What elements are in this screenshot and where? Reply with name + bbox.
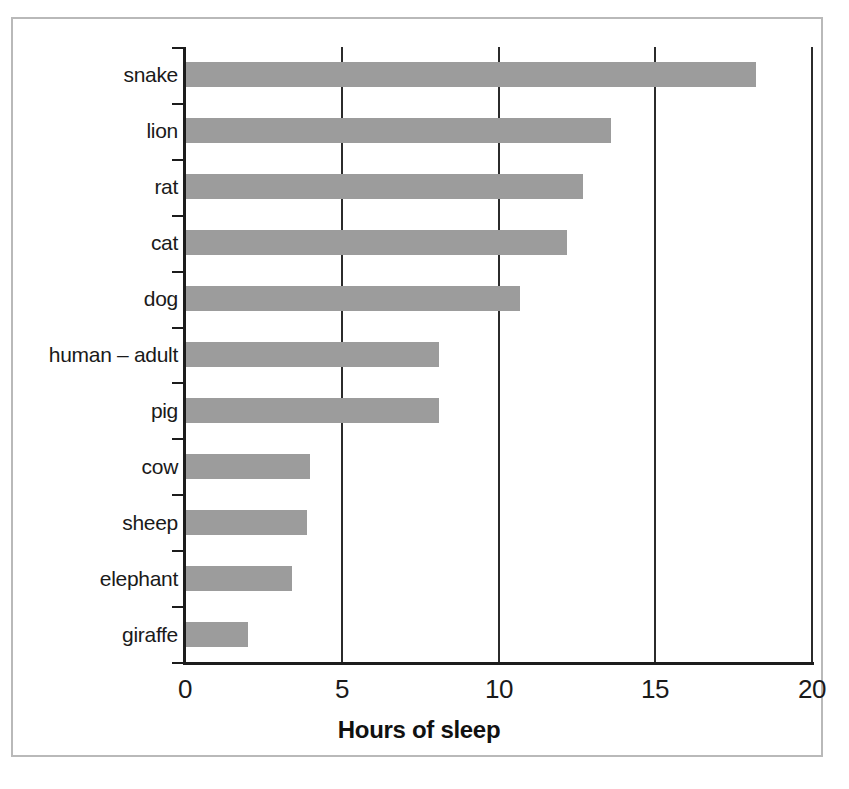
bar [185, 230, 567, 255]
bar [185, 174, 583, 199]
y-axis-tick [172, 159, 185, 161]
y-axis-tick [172, 271, 185, 273]
y-axis-tick [172, 327, 185, 329]
bar [185, 566, 292, 591]
category-axis-labels: snakelionratcatdoghuman – adultpigcowshe… [13, 47, 178, 662]
y-axis-line [183, 47, 186, 664]
category-label: human – adult [18, 342, 178, 367]
gridline-15 [654, 47, 656, 662]
bar [185, 622, 248, 647]
category-label: dog [18, 286, 178, 311]
bar [185, 62, 756, 87]
x-tick-label: 20 [782, 674, 842, 704]
category-label: elephant [18, 566, 178, 591]
bar [185, 342, 439, 367]
category-label: pig [18, 398, 178, 423]
y-axis-tick [172, 103, 185, 105]
y-axis-tick [172, 606, 185, 608]
category-label: cow [18, 454, 178, 479]
gridline-20 [811, 47, 813, 662]
y-axis-tick [172, 550, 185, 552]
figure-frame: snakelionratcatdoghuman – adultpigcowshe… [11, 17, 823, 757]
bar [185, 286, 520, 311]
category-label: snake [18, 62, 178, 87]
figure-title [13, 4, 825, 18]
x-tick-label: 5 [312, 674, 372, 704]
bar [185, 398, 439, 423]
y-axis-tick [172, 438, 185, 440]
x-tick-label: 15 [625, 674, 685, 704]
y-axis-tick [172, 47, 185, 49]
y-axis-tick [172, 494, 185, 496]
category-label: giraffe [18, 622, 178, 647]
plot-area [185, 47, 812, 662]
x-axis-tick-labels: 05101520 [13, 674, 825, 708]
y-axis-tick [172, 382, 185, 384]
bar [185, 454, 310, 479]
category-label: sheep [18, 510, 178, 535]
y-axis-tick [172, 215, 185, 217]
x-tick-label: 0 [155, 674, 215, 704]
bar [185, 118, 611, 143]
bar [185, 510, 307, 535]
category-label: cat [18, 230, 178, 255]
category-label: lion [18, 118, 178, 143]
category-label: rat [18, 174, 178, 199]
x-axis-title: Hours of sleep [13, 716, 825, 744]
x-tick-label: 10 [469, 674, 529, 704]
x-axis-line [183, 662, 814, 665]
